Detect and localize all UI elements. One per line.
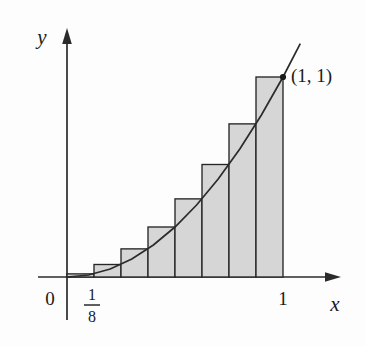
table-row xyxy=(175,199,202,277)
endpoint-label: (1, 1) xyxy=(291,65,332,87)
fraction-numerator: 1 xyxy=(88,286,96,303)
fraction-denominator: 8 xyxy=(88,308,96,325)
table-row xyxy=(229,124,256,277)
table-row xyxy=(148,227,175,277)
endpoint-marker-dot xyxy=(280,74,286,80)
y-axis-arrow-icon xyxy=(62,28,72,44)
x-axis-label: x xyxy=(329,292,340,316)
table-row xyxy=(256,77,283,277)
x-axis-arrow-icon xyxy=(325,272,341,282)
origin-label: 0 xyxy=(45,288,55,309)
y-axis-label: y xyxy=(35,25,47,49)
riemann-rectangles xyxy=(67,77,283,277)
riemann-sum-figure: y x 0 1 8 1 (1, 1) xyxy=(0,0,366,346)
x-tick-one-label: 1 xyxy=(278,288,288,309)
x-tick-one-eighth: 1 8 xyxy=(84,286,100,325)
